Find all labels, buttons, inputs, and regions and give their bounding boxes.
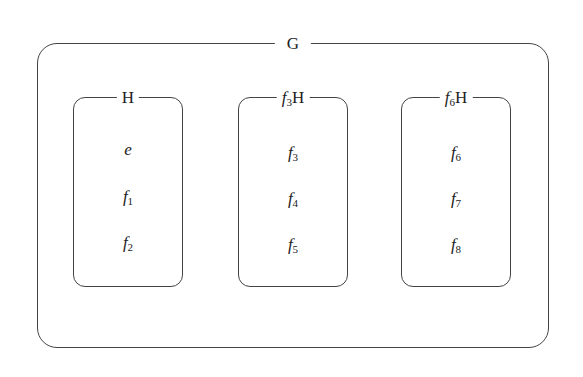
element-e: e bbox=[124, 140, 132, 160]
element-f2: f2 bbox=[123, 233, 133, 253]
coset-f6h-label: f6H bbox=[440, 88, 473, 108]
coset-h-box: H e f1 f2 bbox=[73, 97, 183, 287]
element-f7: f7 bbox=[451, 189, 461, 209]
element-f8: f8 bbox=[451, 235, 461, 255]
element-f1: f1 bbox=[123, 187, 133, 207]
coset-f6h-box: f6H f6 f7 f8 bbox=[401, 97, 511, 287]
element-f6: f6 bbox=[451, 143, 461, 163]
element-f4: f4 bbox=[288, 189, 298, 209]
element-f5: f5 bbox=[288, 235, 298, 255]
coset-f3h-label: f3H bbox=[277, 88, 310, 108]
coset-h-label: H bbox=[117, 88, 139, 108]
coset-f3h-box: f3H f3 f4 f5 bbox=[238, 97, 348, 287]
group-g-label: G bbox=[275, 34, 311, 54]
element-f3: f3 bbox=[288, 143, 298, 163]
